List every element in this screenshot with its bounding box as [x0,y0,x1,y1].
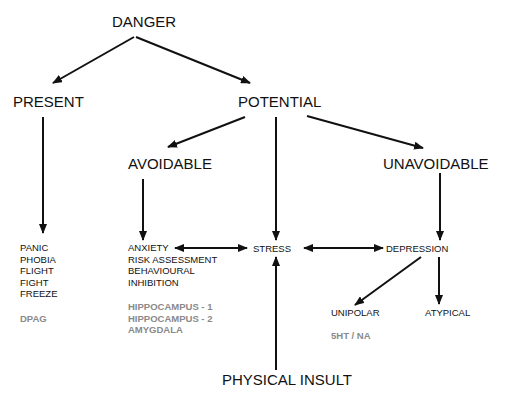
substrate-hippocampus-2: HIPPOCAMPUS - 2 [128,313,212,325]
response-behavioural: BEHAVIOURAL [128,265,217,277]
substrate-amygdala: AMYGDALA [128,324,212,336]
node-depression: DEPRESSION [386,243,448,255]
substrate-hippocampus-1: HIPPOCAMPUS - 1 [128,301,212,313]
node-atypical: ATYPICAL [425,307,470,319]
node-present: PRESENT [13,94,84,109]
node-unipolar: UNIPOLAR [331,307,380,319]
substrate-dpag: DPAG [20,313,47,325]
response-panic: PANIC [20,242,57,254]
substrate-5ht-na: 5HT / NA [331,330,371,342]
arrow-depression-unipolar [355,257,421,305]
node-unavoidable: UNAVOIDABLE [383,156,489,171]
arrow-danger-potential [136,37,250,83]
response-anxiety: ANXIETY [128,242,217,254]
node-avoidable: AVOIDABLE [128,156,212,171]
avoidable-substrates-list: HIPPOCAMPUS - 1 HIPPOCAMPUS - 2 AMYGDALA [128,301,212,336]
danger-flow-diagram: DANGER PRESENT POTENTIAL AVOIDABLE UNAVO… [0,0,507,397]
arrow-potential-unavoidable [307,116,423,148]
avoidable-responses-list: ANXIETY RISK ASSESSMENT BEHAVIOURAL INHI… [128,242,217,288]
present-responses-list: PANIC PHOBIA FLIGHT FIGHT FREEZE [20,242,57,300]
response-freeze: FREEZE [20,288,57,300]
response-flight: FLIGHT [20,265,57,277]
response-fight: FIGHT [20,277,57,289]
arrow-potential-avoidable [168,117,245,147]
node-danger: DANGER [112,14,176,29]
node-physical-insult: PHYSICAL INSULT [222,372,352,387]
node-potential: POTENTIAL [238,94,321,109]
response-inhibition: INHIBITION [128,277,217,289]
arrow-danger-present [53,37,134,83]
node-stress: STRESS [253,243,291,255]
response-risk-assessment: RISK ASSESSMENT [128,254,217,266]
response-phobia: PHOBIA [20,254,57,266]
arrows-layer [0,0,507,397]
